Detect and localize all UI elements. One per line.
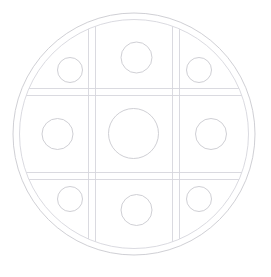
background-rect bbox=[0, 0, 271, 277]
plate-diagram: Circular Plate With 3x3 Grid And Wells bbox=[0, 0, 271, 277]
diagram-canvas: Circular Plate With 3x3 Grid And Wells bbox=[0, 0, 271, 277]
